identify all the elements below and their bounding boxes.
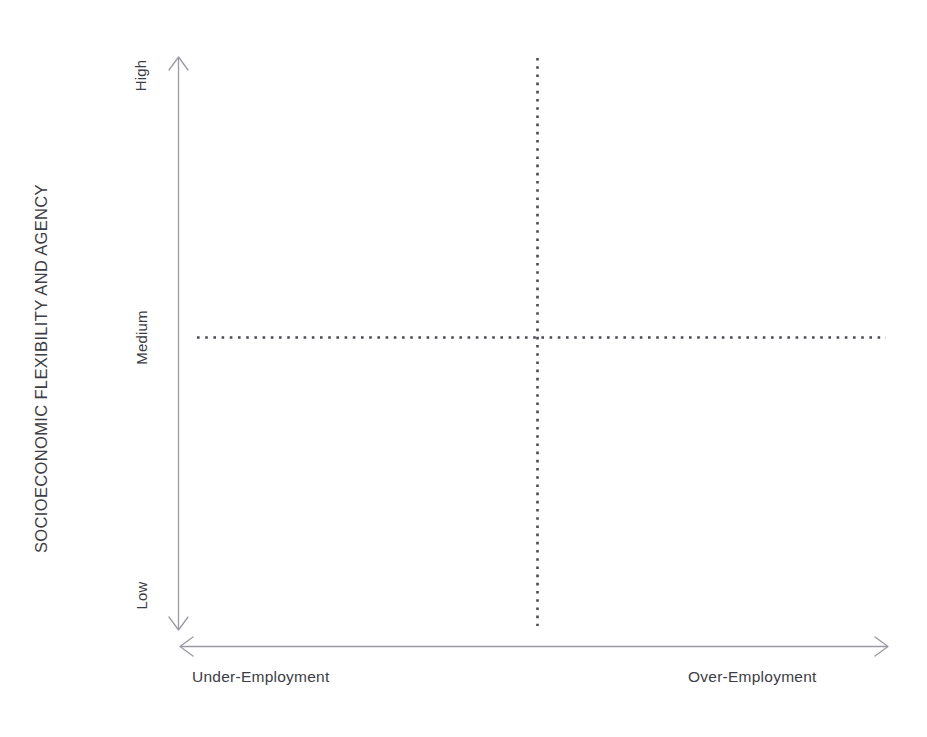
quadrant-bottom-left bbox=[180, 338, 537, 626]
quadrant-top-right bbox=[538, 58, 886, 337]
quadrant-top-left bbox=[180, 58, 537, 337]
quadrant-bottom-right bbox=[538, 338, 886, 626]
quadrant-chart: SOCIOECONOMIC FLEXIBILITY AND AGENCY Hig… bbox=[0, 0, 927, 737]
